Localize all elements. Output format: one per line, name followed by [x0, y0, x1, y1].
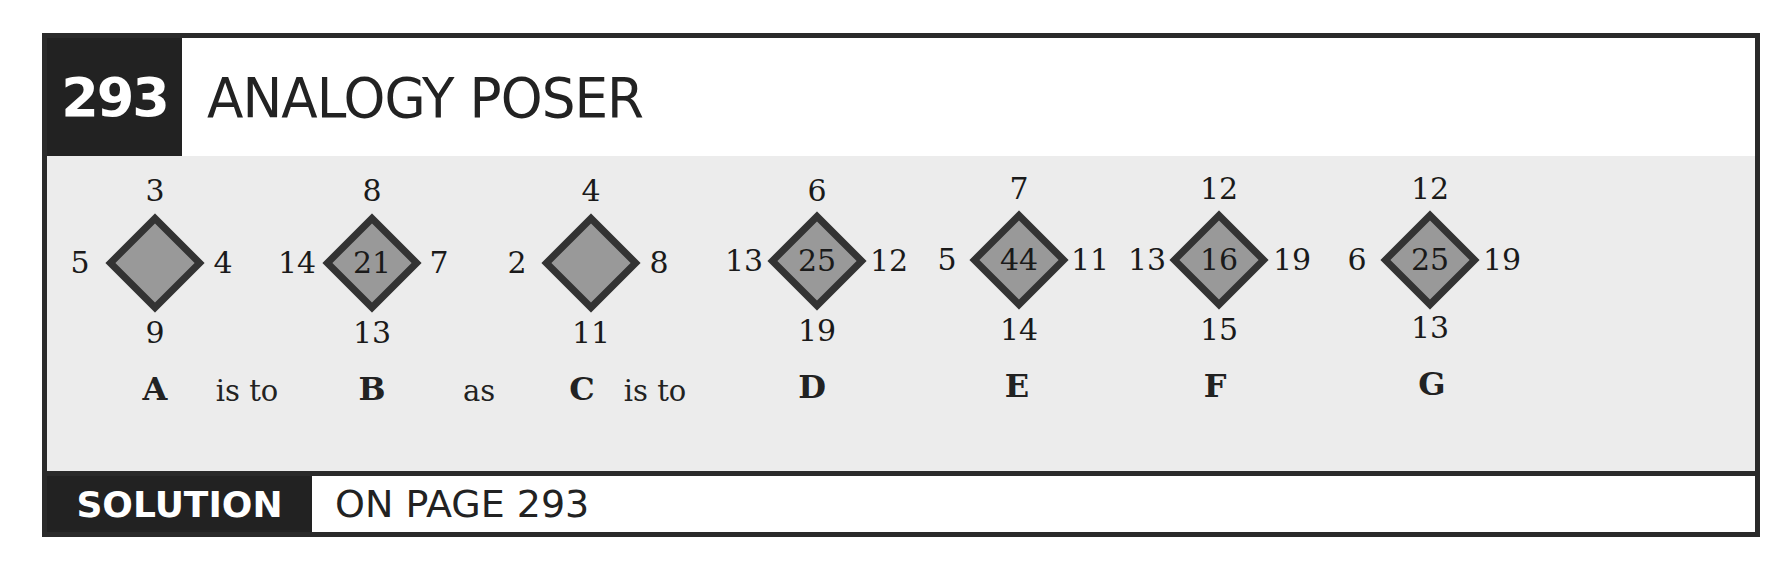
figure-c-label: C [569, 370, 594, 408]
figure-b-label: B [358, 370, 385, 408]
figure-e-label: E [1005, 367, 1029, 405]
solution-band: SOLUTION ON PAGE 293 [47, 471, 1755, 532]
figure-d-bottom: 19 [798, 316, 836, 346]
diamond-shape [542, 214, 641, 313]
figure-g-left: 6 [1347, 245, 1366, 275]
figure-b-top: 8 [362, 176, 381, 206]
figure-g-top: 12 [1411, 174, 1449, 204]
figure-f-right: 19 [1273, 245, 1311, 275]
figure-g-right: 19 [1483, 245, 1521, 275]
figure-b-left: 14 [278, 248, 316, 278]
figure-e-top: 7 [1009, 174, 1028, 204]
solution-page-reference: ON PAGE 293 [335, 476, 589, 532]
connector-is-to: is to [216, 374, 279, 408]
figure-e-left: 5 [937, 245, 956, 275]
figure-b-right: 7 [429, 248, 448, 278]
figure-b-center: 21 [353, 248, 391, 278]
figure-c-top: 4 [581, 176, 600, 206]
figure-e-right: 11 [1071, 245, 1109, 275]
figure-d-right: 12 [870, 246, 908, 276]
figure-b-bottom: 13 [353, 318, 391, 348]
figure-f-label: F [1204, 367, 1227, 405]
figure-g-bottom: 13 [1411, 313, 1449, 343]
puzzle-content: 3 5 4 9 A is to 8 14 21 7 13 B as 4 2 8 … [47, 156, 1755, 481]
connector-is-to: is to [624, 374, 687, 408]
figure-a-right: 4 [213, 248, 232, 278]
figure-e-bottom: 14 [1000, 315, 1038, 345]
diamond-shape [106, 214, 205, 313]
figure-e-center: 44 [1000, 245, 1038, 275]
figure-f-center: 16 [1200, 245, 1238, 275]
puzzle-title: ANALOGY POSER [207, 38, 643, 156]
figure-c-bottom: 11 [572, 318, 610, 348]
figure-a-top: 3 [145, 176, 164, 206]
figure-d-top: 6 [807, 176, 826, 206]
figure-c-left: 2 [507, 248, 526, 278]
connector-as: as [463, 374, 495, 408]
figure-d-left: 13 [725, 246, 763, 276]
figure-d-center: 25 [798, 246, 836, 276]
figure-g-center: 25 [1411, 245, 1449, 275]
figure-a-left: 5 [70, 248, 89, 278]
figure-d-label: D [798, 368, 826, 406]
figure-g-label: G [1418, 365, 1445, 403]
title-band: 293 ANALOGY POSER [47, 38, 1755, 161]
figure-a-label: A [143, 370, 168, 408]
figure-f-bottom: 15 [1200, 315, 1238, 345]
puzzle-number: 293 [47, 38, 182, 156]
puzzle-frame: 293 ANALOGY POSER 3 5 4 9 A is to 8 14 2… [42, 33, 1760, 537]
solution-label: SOLUTION [47, 476, 312, 532]
figure-f-top: 12 [1200, 174, 1238, 204]
figure-c-right: 8 [649, 248, 668, 278]
figure-a-bottom: 9 [145, 318, 164, 348]
figure-f-left: 13 [1128, 245, 1166, 275]
